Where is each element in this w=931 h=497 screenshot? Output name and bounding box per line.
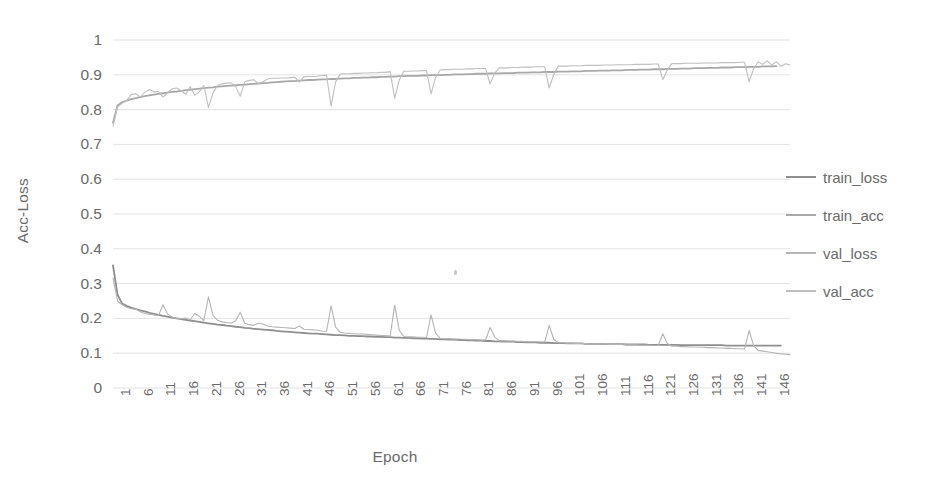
x-tick-label: 76 (459, 381, 474, 396)
legend-item-train-loss[interactable]: train_loss (786, 158, 926, 196)
y-axis-title: Acc-Loss (14, 178, 32, 243)
x-tick-label: 41 (300, 381, 315, 396)
x-axis-title: Epoch (0, 448, 790, 466)
x-tick-label: 16 (186, 381, 201, 396)
x-tick-label: 91 (527, 381, 542, 396)
legend-item-train-acc[interactable]: train_acc (786, 196, 926, 234)
legend: train_losstrain_accval_lossval_acc (786, 158, 926, 310)
legend-line-swatch (786, 252, 816, 253)
x-tick-label: 81 (481, 381, 496, 396)
x-tick-label: 111 (618, 375, 633, 396)
legend-label: train_loss (823, 169, 887, 186)
x-tick-label: 101 (572, 373, 587, 396)
legend-label: val_loss (823, 245, 877, 262)
x-tick-label: 26 (232, 381, 247, 396)
x-tick-label: 106 (595, 373, 610, 396)
legend-line-swatch (786, 176, 816, 178)
x-tick-label: 11 (163, 382, 178, 396)
x-tick-label: 141 (754, 373, 769, 396)
legend-line-swatch (786, 214, 816, 215)
x-tick-label: 71 (436, 381, 451, 396)
x-tick-label: 1 (118, 388, 133, 396)
x-tick-label: 126 (686, 373, 701, 396)
legend-label: train_acc (823, 207, 884, 224)
x-tick-label: 36 (277, 381, 292, 396)
scan-artifact-speck (454, 270, 457, 275)
x-tick-label: 31 (254, 381, 269, 396)
x-tick-label: 116 (641, 374, 656, 396)
chart-container: 00.10.20.30.40.50.60.70.80.91 1611162126… (0, 0, 931, 497)
x-tick-label: 96 (550, 381, 565, 396)
legend-item-val-acc[interactable]: val_acc (786, 272, 926, 310)
x-tick-label: 51 (345, 381, 360, 396)
legend-item-val-loss[interactable]: val_loss (786, 234, 926, 272)
x-tick-label: 21 (209, 381, 224, 396)
x-tick-label: 121 (663, 373, 678, 396)
x-tick-label: 136 (731, 373, 746, 396)
x-tick-label: 86 (504, 381, 519, 396)
x-tick-label: 56 (368, 381, 383, 396)
x-tick-label: 46 (322, 381, 337, 396)
x-tick-label: 66 (413, 381, 428, 396)
legend-line-swatch (786, 290, 816, 291)
x-tick-label: 6 (141, 388, 156, 396)
legend-label: val_acc (823, 283, 874, 300)
x-tick-label: 131 (709, 373, 724, 396)
x-tick-label: 146 (777, 373, 792, 396)
x-tick-label: 61 (391, 381, 406, 396)
